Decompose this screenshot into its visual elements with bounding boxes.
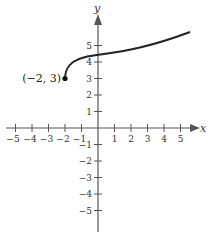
svg-text:3: 3: [145, 134, 151, 144]
endpoint-dot: [62, 76, 67, 81]
endpoint-label: (−2, 3): [22, 72, 61, 85]
y-axis-arrow-icon: [94, 14, 102, 25]
svg-text:−2: −2: [56, 134, 69, 144]
svg-text:−2: −2: [79, 156, 92, 166]
x-axis-arrow-icon: [190, 124, 200, 132]
svg-text:−3: −3: [79, 173, 93, 183]
svg-text:4: 4: [86, 57, 92, 67]
svg-text:1: 1: [112, 134, 118, 144]
svg-text:5: 5: [178, 134, 184, 144]
function-curve: [65, 32, 190, 79]
function-graph: x y −5 −4 −3 −2 −1 1 2 3 4 5: [0, 0, 208, 233]
svg-text:5: 5: [86, 41, 92, 51]
svg-text:1: 1: [86, 107, 92, 117]
y-axis-label: y: [93, 2, 101, 15]
svg-text:−5: −5: [79, 206, 93, 216]
svg-text:−3: −3: [40, 134, 54, 144]
svg-text:−4: −4: [23, 134, 37, 144]
svg-text:3: 3: [86, 74, 92, 84]
axes: [6, 20, 194, 232]
svg-text:2: 2: [86, 90, 92, 100]
svg-text:2: 2: [128, 134, 134, 144]
svg-text:4: 4: [161, 134, 167, 144]
svg-text:−1: −1: [79, 140, 92, 150]
x-axis-label: x: [200, 122, 207, 135]
x-tick-labels: −5 −4 −3 −2 −1 1 2 3 4 5: [6, 134, 183, 144]
svg-text:−4: −4: [79, 189, 93, 199]
svg-text:−5: −5: [6, 134, 20, 144]
